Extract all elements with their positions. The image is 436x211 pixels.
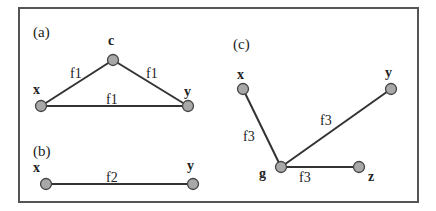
panel-b: (b) f2 x y — [33, 143, 199, 190]
node-a-y — [183, 101, 194, 112]
node-c-z-label: z — [368, 169, 374, 184]
node-c-x-label: x — [237, 67, 244, 82]
node-b-y-label: y — [187, 158, 194, 173]
edge-c-g-y-label: f3 — [320, 113, 332, 128]
node-c-g-label: g — [259, 166, 266, 181]
edge-a-x-c-label: f1 — [70, 66, 82, 81]
edge-c-x-g-label: f3 — [243, 129, 255, 144]
node-a-c-label: c — [108, 33, 114, 48]
edge-a-c-y-label: f1 — [146, 66, 158, 81]
panel-a: (a) f1 f1 f1 c x y — [33, 24, 194, 112]
node-c-y-label: y — [385, 65, 392, 80]
node-c-z — [354, 162, 365, 173]
node-b-x — [41, 179, 52, 190]
node-a-x-label: x — [33, 82, 40, 97]
edge-a-x-y-label: f1 — [106, 92, 118, 107]
edge-c-x-g — [243, 89, 281, 167]
panel-b-label: (b) — [33, 143, 51, 160]
node-b-y — [188, 179, 199, 190]
node-a-y-label: y — [184, 84, 191, 99]
node-c-x — [238, 84, 249, 95]
node-c-g — [276, 162, 287, 173]
node-a-x — [36, 101, 47, 112]
panel-c-label: (c) — [233, 36, 250, 53]
edge-c-g-y — [281, 89, 391, 167]
edge-c-g-z-label: f3 — [299, 170, 311, 185]
node-c-y — [386, 84, 397, 95]
node-a-c — [108, 55, 119, 66]
node-b-x-label: x — [33, 160, 40, 175]
panel-a-label: (a) — [33, 24, 50, 41]
graph-diagram: (a) f1 f1 f1 c x y (b) f2 x y (c) f3 f3 … — [0, 0, 436, 211]
panel-c: (c) f3 f3 f3 x y g z — [233, 36, 397, 185]
edge-b-x-y-label: f2 — [106, 170, 118, 185]
